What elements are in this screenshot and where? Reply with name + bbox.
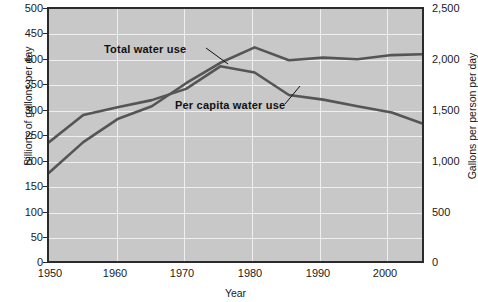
x-axis-tick-label: 1970 — [170, 268, 194, 279]
x-axis-title: Year — [47, 287, 424, 299]
y-axis-left-title: Billions of gallons per day — [22, 16, 34, 196]
x-axis-tick-label: 2000 — [373, 268, 397, 279]
y-axis-right-title: Gallons per person per day — [466, 16, 478, 216]
series-annotation-total-water-use: Total water use — [104, 43, 186, 55]
series-annotation-per-capita-water-use: Per capita water use — [175, 99, 285, 111]
x-axis-tick-label: 1980 — [238, 268, 262, 279]
x-axis-tick-label: 1960 — [103, 268, 127, 279]
x-axis-tick-label: 1990 — [306, 268, 330, 279]
x-axis-tick-label: 1950 — [38, 268, 62, 279]
